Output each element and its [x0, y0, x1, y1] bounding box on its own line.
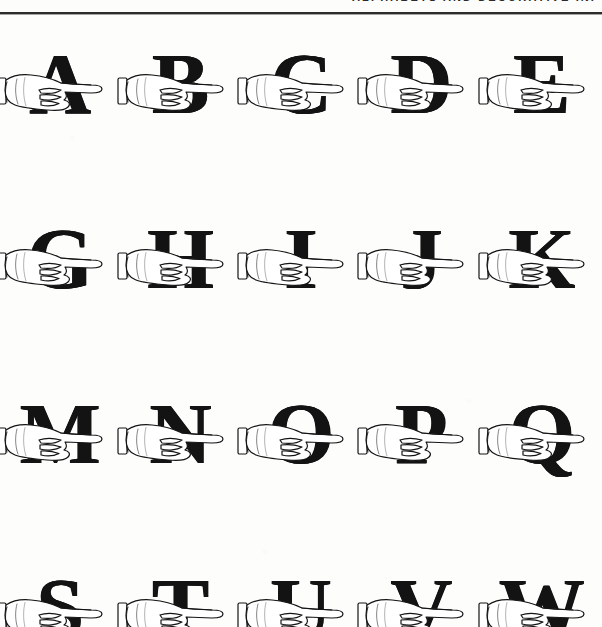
initial-letter: V	[362, 555, 480, 627]
initial-cell[interactable]: T	[120, 547, 240, 627]
initial-letter: K	[483, 205, 601, 313]
initial-glyph: K	[483, 205, 601, 315]
initial-glyph: I	[242, 205, 360, 315]
initial-glyph: T	[122, 555, 240, 627]
initial-glyph: V	[362, 555, 480, 627]
initial-cell[interactable]: S	[0, 547, 120, 627]
scanned-page: ALPHABETS AND DECORATIVE INI A	[0, 0, 602, 627]
initial-cell[interactable]: C	[241, 22, 361, 197]
initial-cell[interactable]: K	[482, 197, 602, 372]
running-head-text: ALPHABETS AND DECORATIVE INI	[352, 0, 596, 3]
initial-cell[interactable]: A	[0, 22, 120, 197]
initial-glyph: D	[362, 30, 480, 140]
alphabet-row: A	[0, 22, 602, 197]
initial-letter: G	[1, 205, 119, 313]
alphabet-row: G	[0, 197, 602, 372]
initial-glyph: S	[1, 555, 119, 627]
initial-letter: M	[1, 380, 119, 488]
initial-glyph: E	[483, 30, 601, 140]
initial-letter: C	[242, 30, 360, 138]
initial-letter: U	[242, 555, 360, 627]
initial-letter: B	[122, 30, 240, 138]
initial-letter: P	[362, 380, 480, 488]
initial-cell[interactable]: U	[241, 547, 361, 627]
initial-glyph: Q	[483, 380, 601, 490]
initial-letter: O	[242, 380, 360, 488]
initial-cell[interactable]: N	[120, 372, 240, 547]
initial-cell[interactable]: D	[361, 22, 481, 197]
initial-cell[interactable]: P	[361, 372, 481, 547]
initial-glyph: O	[242, 380, 360, 490]
initial-letter: T	[122, 555, 240, 627]
initial-cell[interactable]: M	[0, 372, 120, 547]
initial-letter: I	[242, 205, 360, 313]
initial-cell[interactable]: E	[482, 22, 602, 197]
initial-glyph: C	[242, 30, 360, 140]
initial-cell[interactable]: V	[361, 547, 481, 627]
initial-cell[interactable]: I	[241, 197, 361, 372]
initial-cell[interactable]: G	[0, 197, 120, 372]
initial-cell[interactable]: J	[361, 197, 481, 372]
initial-glyph: H	[122, 205, 240, 315]
header-rule	[0, 12, 602, 14]
initial-letter: Q	[483, 380, 601, 488]
initial-glyph: B	[122, 30, 240, 140]
alphabet-row: M	[0, 372, 602, 547]
initial-letter: E	[483, 30, 601, 138]
initial-glyph: A	[1, 30, 119, 140]
initial-cell[interactable]: O	[241, 372, 361, 547]
initial-glyph: P	[362, 380, 480, 490]
initial-letter: H	[122, 205, 240, 313]
initial-glyph: M	[1, 380, 119, 490]
initial-glyph: U	[242, 555, 360, 627]
initial-glyph: W	[483, 555, 601, 627]
initial-cell[interactable]: B	[120, 22, 240, 197]
alphabet-plate: A	[0, 22, 602, 627]
initial-letter: J	[362, 205, 480, 313]
initial-letter: S	[1, 555, 119, 627]
initial-cell[interactable]: Q	[482, 372, 602, 547]
initial-cell[interactable]: W	[482, 547, 602, 627]
initial-letter: N	[122, 380, 240, 488]
initial-glyph: N	[122, 380, 240, 490]
initial-letter: D	[362, 30, 480, 138]
initial-letter: A	[1, 30, 119, 138]
initial-glyph: G	[1, 205, 119, 315]
alphabet-row: S	[0, 547, 602, 627]
initial-cell[interactable]: H	[120, 197, 240, 372]
initial-letter: W	[483, 555, 601, 627]
running-head: ALPHABETS AND DECORATIVE INI	[0, 0, 602, 7]
initial-glyph: J	[362, 205, 480, 315]
